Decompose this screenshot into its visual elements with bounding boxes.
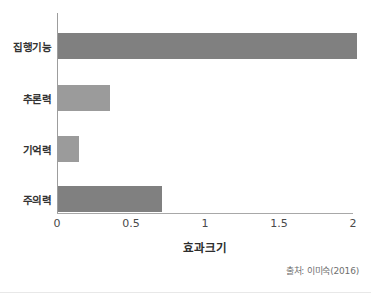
category-label-3: 주의력 xyxy=(0,192,52,207)
plot-area: 집행기능 추론력 기억력 주의력 0 0.5 1 1.5 2 효과크기 xyxy=(0,0,371,293)
x-tick-label: 1.5 xyxy=(259,217,299,230)
category-label-0: 집행기능 xyxy=(0,39,52,54)
x-tick-label: 2 xyxy=(333,217,371,230)
x-axis-title: 효과크기 xyxy=(57,239,353,255)
category-label-1: 추론력 xyxy=(0,91,52,106)
x-tick-label: 0 xyxy=(37,217,77,230)
x-axis-line xyxy=(57,213,353,214)
x-tick-label: 0.5 xyxy=(111,217,151,230)
chart-figure: 집행기능 추론력 기억력 주의력 0 0.5 1 1.5 2 효과크기 출처: … xyxy=(0,0,371,293)
bar-segment[interactable] xyxy=(58,85,110,111)
bar-segment[interactable] xyxy=(58,136,79,162)
source-note: 출처: 이미숙(2016) xyxy=(286,264,359,277)
bar-segment[interactable] xyxy=(58,33,357,59)
category-label-2: 기억력 xyxy=(0,142,52,157)
bar-segment[interactable] xyxy=(58,186,162,212)
x-tick-label: 1 xyxy=(185,217,225,230)
